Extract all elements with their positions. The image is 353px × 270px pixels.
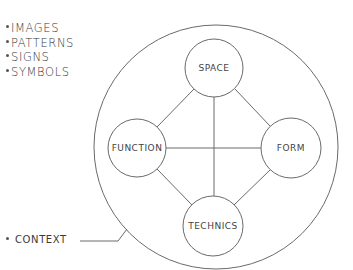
diagram-canvas [0, 0, 353, 270]
node-function-label: FUNCTION [112, 143, 163, 153]
node-technics-label: TECHNICS [188, 221, 238, 231]
connector-form-technics [234, 170, 270, 205]
context-label: CONTEXT [6, 234, 67, 245]
bullet-icon [6, 237, 9, 240]
connector-space-form [235, 89, 270, 126]
context-leader-line [80, 229, 127, 241]
connector-space-function [157, 89, 194, 127]
node-form-label: FORM [277, 143, 305, 153]
connector-function-technics [157, 169, 192, 205]
node-space-label: SPACE [198, 63, 229, 73]
